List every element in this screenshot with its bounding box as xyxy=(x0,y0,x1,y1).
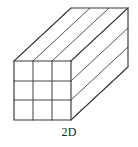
figure-caption: 2D xyxy=(0,125,138,139)
front-face xyxy=(14,61,71,120)
figure-container: 2D xyxy=(0,0,138,147)
